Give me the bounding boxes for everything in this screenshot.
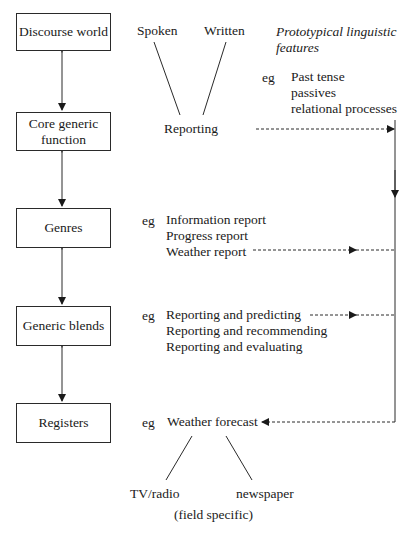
- level-label: Core generic function: [27, 116, 100, 148]
- features-heading-line1: Prototypical linguistic: [276, 24, 397, 40]
- genre-item: Information report: [166, 212, 266, 228]
- level-label: Generic blends: [23, 318, 104, 334]
- features-heading-line2: features: [276, 40, 319, 56]
- register-note: (field specific): [174, 507, 253, 523]
- blend-item: Reporting and predicting: [166, 307, 301, 323]
- register-branch-newspaper: newspaper: [236, 486, 294, 502]
- line-written-reporting: [203, 42, 226, 115]
- level-box-discourse-world: Discourse world: [16, 13, 111, 51]
- level-label: Discourse world: [19, 24, 108, 40]
- blend-item: Reporting and recommending: [166, 323, 327, 339]
- core-function-reporting: Reporting: [164, 121, 218, 137]
- genre-item: Progress report: [166, 228, 248, 244]
- level-label: Registers: [38, 415, 88, 431]
- level-box-registers: Registers: [16, 403, 111, 443]
- blends-eg: eg: [142, 308, 155, 324]
- blend-item: Reporting and evaluating: [166, 339, 302, 355]
- line-forecast-newspaper: [226, 436, 252, 480]
- level-box-core-generic-function: Core generic function: [16, 112, 111, 151]
- register-branch-tvradio: TV/radio: [130, 486, 180, 502]
- mode-spoken: Spoken: [137, 23, 178, 39]
- level-box-genres: Genres: [16, 208, 111, 248]
- genre-item: Weather report: [166, 244, 246, 260]
- features-eg: eg: [262, 70, 275, 86]
- register-example: Weather forecast: [167, 414, 258, 430]
- registers-eg: eg: [142, 415, 155, 431]
- connector-lines: [0, 0, 410, 540]
- feature-item: relational processes: [291, 101, 397, 117]
- line-spoken-reporting: [154, 42, 180, 115]
- mode-written: Written: [204, 23, 245, 39]
- feature-item: passives: [291, 85, 336, 101]
- level-box-generic-blends: Generic blends: [16, 306, 111, 346]
- line-forecast-tvradio: [166, 436, 192, 480]
- level-label: Genres: [44, 220, 82, 236]
- feature-item: Past tense: [291, 69, 345, 85]
- genres-eg: eg: [142, 213, 155, 229]
